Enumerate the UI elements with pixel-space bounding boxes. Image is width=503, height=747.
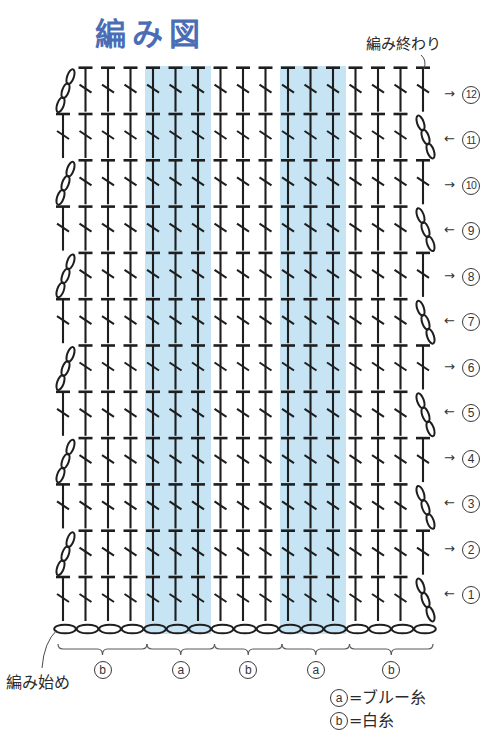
legend-key-a-circle: a — [330, 689, 348, 707]
chain-icon — [99, 625, 121, 634]
double-crochet-icon — [416, 438, 430, 482]
double-crochet-icon — [79, 160, 93, 204]
stitch-rows — [55, 68, 436, 623]
double-crochet-icon — [371, 484, 385, 528]
turning-chain-icon — [415, 578, 436, 623]
double-crochet-icon — [371, 392, 385, 436]
double-crochet-icon — [349, 114, 363, 158]
double-crochet-icon — [371, 531, 385, 575]
chain-loop — [425, 513, 436, 530]
double-crochet-icon — [259, 253, 273, 297]
double-crochet-icon — [349, 207, 363, 251]
double-crochet-icon — [236, 114, 250, 158]
double-crochet-icon — [214, 299, 228, 343]
double-crochet-icon — [236, 160, 250, 204]
double-crochet-icon — [79, 392, 93, 436]
arrow-left-icon: ← — [444, 132, 455, 145]
double-crochet-icon — [79, 484, 93, 528]
double-crochet-icon — [214, 253, 228, 297]
turning-chain-icon — [415, 485, 436, 530]
chain-icon — [234, 625, 256, 634]
page-title: 編み図 — [95, 19, 206, 50]
turning-chain-icon — [55, 346, 76, 391]
double-crochet-icon — [259, 160, 273, 204]
double-crochet-icon — [349, 438, 363, 482]
section-label-a: a — [307, 661, 325, 679]
row-number-circle: 9 — [462, 222, 480, 240]
double-crochet-icon — [56, 114, 70, 158]
crochet-chart — [0, 0, 503, 747]
chain-loop — [55, 374, 66, 391]
double-crochet-icon — [259, 299, 273, 343]
double-crochet-icon — [124, 160, 138, 204]
chain-loop — [425, 420, 436, 437]
crochet-chart-page: 編み図 編み終わり 編み始め ←1→2←3→4←5→6←7→8←9→10←11→… — [0, 0, 503, 747]
double-crochet-icon — [236, 346, 250, 390]
double-crochet-icon — [214, 531, 228, 575]
double-crochet-icon — [236, 207, 250, 251]
double-crochet-icon — [124, 114, 138, 158]
double-crochet-icon — [349, 299, 363, 343]
double-crochet-icon — [101, 299, 115, 343]
brace-icon — [215, 644, 283, 655]
double-crochet-icon — [124, 346, 138, 390]
double-crochet-icon — [349, 253, 363, 297]
chain-loop — [55, 189, 66, 206]
double-crochet-icon — [79, 438, 93, 482]
double-crochet-icon — [394, 207, 408, 251]
double-crochet-icon — [371, 207, 385, 251]
double-crochet-icon — [124, 531, 138, 575]
turning-chain-icon — [415, 300, 436, 345]
double-crochet-icon — [394, 346, 408, 390]
arrow-left-icon: ← — [444, 496, 455, 509]
double-crochet-icon — [101, 207, 115, 251]
chain-icon — [347, 625, 369, 634]
double-crochet-icon — [349, 392, 363, 436]
double-crochet-icon — [394, 438, 408, 482]
section-label-a: a — [172, 661, 190, 679]
double-crochet-icon — [259, 438, 273, 482]
double-crochet-icon — [349, 484, 363, 528]
double-crochet-icon — [214, 484, 228, 528]
double-crochet-icon — [259, 484, 273, 528]
double-crochet-icon — [394, 577, 408, 621]
double-crochet-icon — [416, 346, 430, 390]
blue-yarn-band — [280, 66, 346, 634]
double-crochet-icon — [371, 346, 385, 390]
double-crochet-icon — [371, 299, 385, 343]
chain-icon — [77, 625, 99, 634]
chain-icon — [54, 625, 76, 634]
section-label-b: b — [94, 661, 112, 679]
double-crochet-icon — [79, 346, 93, 390]
chain-loop — [425, 143, 436, 160]
double-crochet-icon — [349, 68, 363, 112]
row-number-circle: 4 — [462, 450, 480, 468]
double-crochet-icon — [214, 577, 228, 621]
double-crochet-icon — [236, 484, 250, 528]
double-crochet-icon — [79, 114, 93, 158]
double-crochet-icon — [236, 577, 250, 621]
chain-loop — [425, 328, 436, 345]
chart-row-2 — [55, 531, 430, 576]
legend-text-white-yarn: =白糸 — [349, 713, 394, 729]
double-crochet-icon — [79, 299, 93, 343]
chain-icon — [122, 625, 144, 634]
chart-row-5 — [56, 392, 436, 437]
double-crochet-icon — [394, 299, 408, 343]
double-crochet-icon — [394, 531, 408, 575]
row-number-circle: 2 — [462, 541, 480, 559]
double-crochet-icon — [101, 438, 115, 482]
double-crochet-icon — [79, 531, 93, 575]
brace-icon — [350, 644, 434, 655]
double-crochet-icon — [416, 531, 430, 575]
chain-loop — [55, 281, 66, 298]
chart-row-1 — [56, 577, 436, 622]
double-crochet-icon — [124, 207, 138, 251]
chart-row-11 — [56, 114, 436, 159]
double-crochet-icon — [101, 114, 115, 158]
double-crochet-icon — [259, 531, 273, 575]
double-crochet-icon — [214, 114, 228, 158]
double-crochet-icon — [394, 253, 408, 297]
double-crochet-icon — [79, 577, 93, 621]
double-crochet-icon — [56, 484, 70, 528]
